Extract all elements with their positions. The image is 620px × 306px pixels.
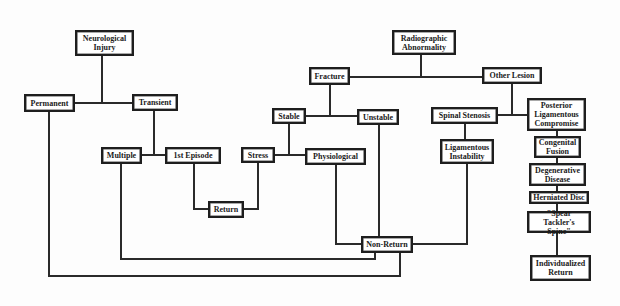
node-individualized-return: Individualized Return [530,255,591,281]
node-stable: Stable [272,108,306,124]
node-herniated-disc: Herniated Disc [529,191,589,204]
node-label: Posterior Ligamentous Compromise [534,101,578,128]
node-label: Herniated Disc [533,193,584,202]
node-congenital-fusion: Congenital Fusion [534,136,581,158]
node-non-return: Non-Return [361,236,413,253]
node-degenerative-disease: Degenerative Disease [529,163,586,186]
node-label: Neurological Injury [83,34,126,52]
node-stress: Stress [241,147,275,163]
node-label: 1st Episode [174,151,213,160]
node-multiple: Multiple [101,147,142,164]
node-label: Congenital Fusion [539,138,576,156]
node-fracture: Fracture [309,67,350,85]
node-radiographic-abnormality: Radiographic Abnormality [392,30,456,55]
node-label: Multiple [107,151,136,160]
node-label: Physiological [313,152,358,161]
node-first-episode: 1st Episode [165,147,221,164]
node-other-lesion: Other Lesion [482,67,542,84]
node-label: Return [214,205,238,214]
node-posterior-ligamentous-compromise: Posterior Ligamentous Compromise [527,98,586,131]
node-label: Permanent [31,99,69,108]
node-label: "Spear Tackler's Spine" [531,209,587,236]
node-return: Return [208,201,244,218]
node-label: Fracture [314,72,344,81]
node-label: Degenerative Disease [535,166,580,184]
node-label: Non-Return [366,240,407,249]
node-label: Ligamentous Instability [445,143,489,161]
node-label: Radiographic Abnormality [401,34,448,52]
node-neurological-injury: Neurological Injury [75,30,134,56]
node-spinal-stenosis: Spinal Stenosis [431,107,498,124]
node-spear-tacklers-spine: "Spear Tackler's Spine" [527,211,591,233]
node-transient: Transient [132,94,178,111]
node-label: Individualized Return [536,259,585,277]
node-label: Spinal Stenosis [439,111,490,120]
node-ligamentous-instability: Ligamentous Instability [440,139,494,164]
flowchart-canvas: Neurological Injury Permanent Transient … [0,0,620,306]
node-label: Transient [139,98,172,107]
node-unstable: Unstable [357,109,399,125]
node-permanent: Permanent [24,94,75,112]
node-label: Other Lesion [490,71,535,80]
node-label: Unstable [363,113,393,122]
node-physiological: Physiological [305,148,366,165]
node-label: Stable [278,112,299,121]
node-label: Stress [248,151,268,160]
